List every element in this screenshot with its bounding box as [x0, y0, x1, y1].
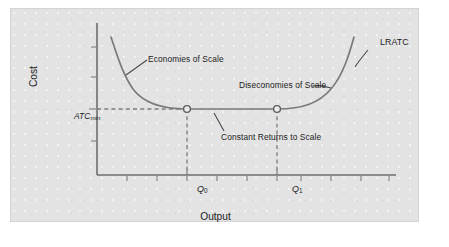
- annotation-constant-returns-to-scale: Constant Returns to Scale: [221, 133, 321, 141]
- q1-subscript: 1: [299, 187, 303, 194]
- lratc-leader-line: [355, 50, 368, 67]
- x-axis-tick-label-q1: Q1: [292, 185, 303, 195]
- q0-subscript: 0: [204, 187, 208, 194]
- lratc-curve: [111, 37, 354, 109]
- x-axis-title: Output: [11, 212, 420, 222]
- q0-marker: [184, 106, 191, 113]
- q0-base-text: Q: [197, 184, 204, 194]
- y-axis-ticks: [89, 47, 97, 141]
- atcmin-base-text: ATC: [74, 111, 90, 121]
- chart-panel: Economies of Scale Diseconomies of Scale…: [10, 8, 419, 222]
- q1-base-text: Q: [292, 184, 299, 194]
- x-axis-tick-label-q0: Q0: [197, 185, 208, 195]
- economies-leader-line: [126, 60, 147, 75]
- figure-root: Economies of Scale Diseconomies of Scale…: [0, 0, 449, 247]
- chart-plot-area: [11, 9, 420, 223]
- annotation-lratc-curve-label: LRATC: [380, 38, 409, 47]
- y-axis-value-label-atcmin: ATCmin: [74, 112, 100, 121]
- annotation-diseconomies-of-scale: Diseconomies of Scale: [239, 81, 326, 89]
- constant-leader-line: [214, 113, 224, 131]
- y-axis-title: Cost: [29, 66, 39, 87]
- q1-marker: [274, 106, 281, 113]
- atcmin-subscript: min: [90, 114, 100, 121]
- annotation-economies-of-scale: Economies of Scale: [148, 55, 224, 63]
